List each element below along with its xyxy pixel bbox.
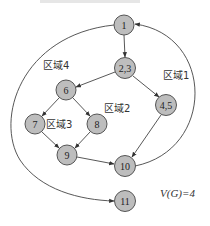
edge-1-to-23 [124,35,125,57]
svg-text:6: 6 [64,85,69,96]
edge-1-to-11 [11,25,114,201]
node-11: 11 [115,191,136,212]
edge-23-to-6 [76,72,115,87]
svg-text:7: 7 [33,119,38,130]
svg-text:11: 11 [120,196,130,207]
node-8: 8 [87,114,107,134]
region-label-1: 区域1 [163,69,189,81]
edge-23-to-45 [133,76,159,97]
region-label-2: 区域2 [104,102,130,114]
edge-45-to-10 [132,115,161,157]
edge-8-to-9 [75,132,90,148]
node-6: 6 [56,80,76,100]
edge-7-to-9 [42,132,59,148]
edge-6-to-8 [73,98,90,116]
svg-text:1: 1 [122,20,127,31]
region-label-4: 区域4 [43,59,69,71]
svg-text:8: 8 [95,119,100,130]
node-2-3: 2,3 [115,58,136,79]
node-1: 1 [114,15,134,35]
svg-text:2,3: 2,3 [119,63,132,74]
svg-text:4,5: 4,5 [160,100,173,111]
svg-text:10: 10 [120,161,130,172]
node-10: 10 [115,156,136,177]
region-label-3: 区域3 [46,118,72,130]
edge-9-to-10 [77,157,114,164]
cyclomatic-complexity-formula: V(G)=4 [160,187,195,200]
edge-6-to-7 [42,98,59,116]
node-9: 9 [57,145,77,165]
node-7: 7 [25,114,45,134]
control-flow-graph: 1 2,3 4,5 6 7 8 9 10 11 区域1 区域2 区域3 区域4 … [0,0,210,226]
node-4-5: 4,5 [156,95,177,116]
svg-text:9: 9 [65,150,70,161]
